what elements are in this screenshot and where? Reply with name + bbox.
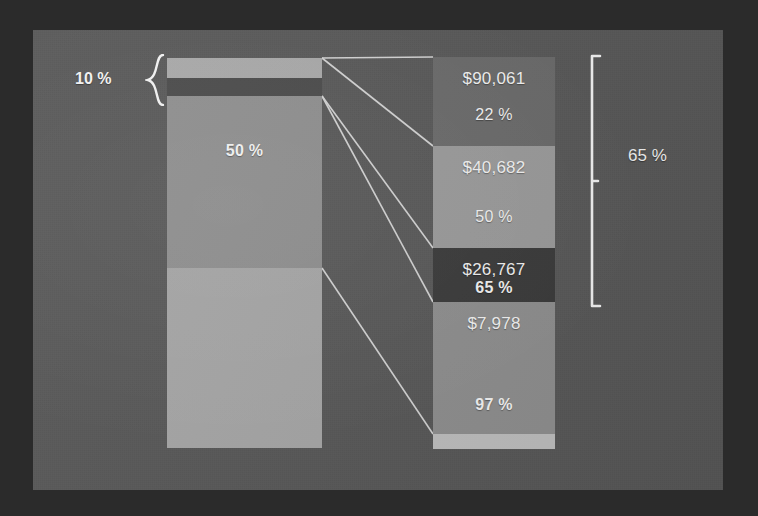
- right-seg-2-value: $40,682: [433, 158, 555, 178]
- right-seg-1-value: $90,061: [433, 69, 555, 89]
- right-seg-3-percent: 65 %: [433, 279, 555, 297]
- left-seg-top-light[interactable]: [167, 58, 322, 78]
- slide-grain-texture: [33, 30, 723, 490]
- slide-screenshot: 50 % 10 % $90,06122 %$40,68250 %$26,7676…: [0, 0, 758, 516]
- right-stacked-bar[interactable]: $90,06122 %$40,68250 %$26,76765 %$7,9789…: [433, 57, 555, 449]
- left-brace-10-percent: [145, 54, 167, 106]
- left-stacked-bar[interactable]: 50 %: [167, 58, 322, 448]
- left-seg-mid[interactable]: [167, 96, 322, 268]
- right-seg-5[interactable]: [433, 434, 555, 449]
- right-seg-4-value: $7,978: [433, 314, 555, 334]
- slide-canvas: 50 % 10 % $90,06122 %$40,68250 %$26,7676…: [33, 30, 723, 490]
- right-seg-2-percent: 50 %: [433, 208, 555, 226]
- left-seg-dark-band[interactable]: [167, 78, 322, 96]
- callout-connector-lines: [33, 30, 723, 490]
- left-seg-mid-label: 50 %: [167, 142, 322, 160]
- right-seg-4-percent: 97 %: [433, 396, 555, 414]
- right-seg-1-percent: 22 %: [433, 106, 555, 124]
- right-bracket-label: 65 %: [628, 146, 667, 166]
- left-seg-bottom[interactable]: [167, 268, 322, 448]
- right-bracket-65-percent: [589, 54, 607, 308]
- right-seg-3-value: $26,767: [433, 260, 555, 280]
- left-bracket-label: 10 %: [75, 70, 111, 88]
